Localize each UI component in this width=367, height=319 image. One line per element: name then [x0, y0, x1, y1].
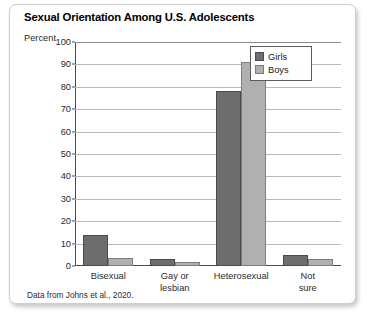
y-tick-label-30: 30: [61, 194, 71, 204]
gridline-80: [75, 87, 341, 88]
bar-girls-1: [150, 259, 175, 266]
x-axis-label-0: Bisexual: [91, 271, 126, 283]
y-tick-label-90: 90: [61, 59, 71, 69]
bar-boys-1: [175, 262, 200, 266]
gridline-60: [75, 132, 341, 133]
y-tick-label-100: 100: [55, 37, 71, 47]
y-tick-label-60: 60: [61, 127, 71, 137]
y-tick-label-70: 70: [61, 104, 71, 114]
legend-label-girls: Girls: [268, 52, 287, 62]
gridline-70: [75, 109, 341, 110]
gridline-10: [75, 244, 341, 245]
y-tick-mark-0: [72, 266, 76, 267]
legend-item-boys: Boys: [255, 63, 307, 76]
legend-swatch-icon-girls: [255, 52, 264, 61]
x-axis-label-1: Gay or lesbian: [160, 271, 189, 294]
y-tick-mark-100: [72, 42, 76, 43]
y-axis-title: Percent: [24, 33, 56, 43]
bar-boys-3: [308, 259, 333, 266]
y-tick-mark-10: [72, 243, 76, 244]
bar-boys-2: [241, 62, 266, 266]
bar-boys-0: [108, 258, 133, 266]
y-tick-mark-70: [72, 109, 76, 110]
gridline-40: [75, 176, 341, 177]
y-tick-mark-40: [72, 176, 76, 177]
screenshot-root: Sexual Orientation Among U.S. Adolescent…: [0, 0, 367, 319]
legend-label-boys: Boys: [268, 65, 289, 75]
chart-legend: Girls Boys: [250, 46, 312, 81]
y-tick-label-0: 0: [66, 261, 71, 271]
y-tick-label-80: 80: [61, 82, 71, 92]
y-tick-label-40: 40: [61, 171, 71, 181]
y-tick-mark-80: [72, 86, 76, 87]
source-note: Data from Johns et al., 2020.: [27, 290, 134, 300]
bar-girls-2: [216, 91, 241, 266]
y-tick-mark-50: [72, 154, 76, 155]
x-axis-label-2: Heterosexual: [214, 271, 269, 283]
gridline-100: [75, 42, 341, 43]
gridline-20: [75, 221, 341, 222]
y-tick-mark-20: [72, 221, 76, 222]
y-tick-mark-30: [72, 198, 76, 199]
gridline-30: [75, 199, 341, 200]
chart-card: Sexual Orientation Among U.S. Adolescent…: [9, 4, 356, 304]
bar-girls-3: [283, 255, 308, 266]
y-tick-label-20: 20: [61, 216, 71, 226]
x-axis-label-3: Not sure: [291, 271, 324, 294]
gridline-50: [75, 154, 341, 155]
y-tick-mark-90: [72, 64, 76, 65]
bar-girls-0: [83, 235, 108, 266]
legend-swatch-icon-boys: [255, 65, 264, 74]
y-tick-label-50: 50: [61, 149, 71, 159]
page-title: Sexual Orientation Among U.S. Adolescent…: [24, 11, 254, 23]
y-tick-mark-60: [72, 131, 76, 132]
y-tick-label-10: 10: [61, 239, 71, 249]
legend-item-girls: Girls: [255, 50, 307, 63]
